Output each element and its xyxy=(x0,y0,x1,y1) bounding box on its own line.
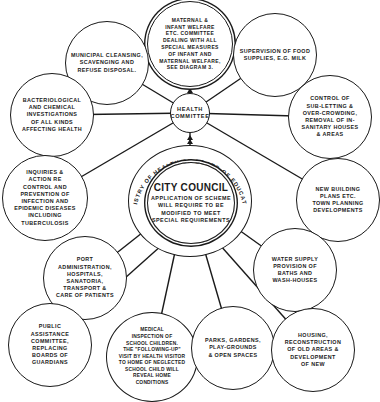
infection-inquiries-text: INQUIRIES & ACTION RE CONTROL AND PREVEN… xyxy=(14,169,76,227)
parks-gardens-node: PARKS, GARDENS, PLAY-GROUNDS & OPEN SPAC… xyxy=(191,306,275,390)
public-assistance-node: PUBLIC ASSISTANCE COMMITTEE, REPLACING B… xyxy=(8,303,92,387)
city-council-title: CITY COUNCIL xyxy=(154,182,229,193)
subletting-control-node: CONTROL OF SUB-LETTING & OVER-CROWDING, … xyxy=(288,75,372,159)
maternal-welfare-text: MATERNAL & INFANT WELFARE ETC. COMMITTEE… xyxy=(159,17,221,71)
parks-gardens-text: PARKS, GARDENS, PLAY-GROUNDS & OPEN SPAC… xyxy=(205,337,261,359)
health-committee-label: HEALTH COMMITTEE xyxy=(171,106,210,120)
city-council-node: CITY COUNCIL APPLICATION OF SCHEME WILL … xyxy=(147,162,235,244)
health-committee-hub: HEALTH COMMITTEE xyxy=(170,93,210,133)
housing-node: HOUSING, RECONSTRUCTION OF OLD AREAS & D… xyxy=(271,308,355,392)
medical-inspection-text: MEDICAL INSPECTION OF SCHOOL CHILDREN. T… xyxy=(119,327,186,386)
port-administration-text: PORT ADMINISTRATION, HOSPITALS, SANATORI… xyxy=(56,256,114,299)
infection-inquiries-node: INQUIRIES & ACTION RE CONTROL AND PREVEN… xyxy=(2,155,88,241)
bacteriological-text: BACTERIOLOGICAL AND CHEMICAL INVESTIGATI… xyxy=(22,97,82,133)
water-supply-text: WATER SUPPLY PROVISION OF BATHS AND WASH… xyxy=(272,256,318,285)
new-building-text: NEW BUILDING PLANS ETC. TOWN PLANNING DE… xyxy=(312,186,363,215)
city-council-subtitle: APPLICATION OF SCHEME WILL REQUIRE TO BE… xyxy=(151,195,231,225)
public-assistance-text: PUBLIC ASSISTANCE COMMITTEE, REPLACING B… xyxy=(31,323,69,366)
bacteriological-node: BACTERIOLOGICAL AND CHEMICAL INVESTIGATI… xyxy=(10,73,94,157)
water-supply-node: WATER SUPPLY PROVISION OF BATHS AND WASH… xyxy=(253,228,337,312)
food-supervision-text: SUPERVISION OF FOOD SUPPLIES, E.G. MILK xyxy=(240,48,310,62)
maternal-welfare-node: MATERNAL & INFANT WELFARE ETC. COMMITTEE… xyxy=(147,1,233,87)
medical-inspection-node: MEDICAL INSPECTION OF SCHOOL CHILDREN. T… xyxy=(106,312,198,402)
housing-text: HOUSING, RECONSTRUCTION OF OLD AREAS & D… xyxy=(285,332,342,368)
subletting-control-text: CONTROL OF SUB-LETTING & OVER-CROWDING, … xyxy=(301,95,358,138)
municipal-cleansing-text: MUNICIPAL CLEANSING, SCAVENGING AND REFU… xyxy=(71,52,143,74)
